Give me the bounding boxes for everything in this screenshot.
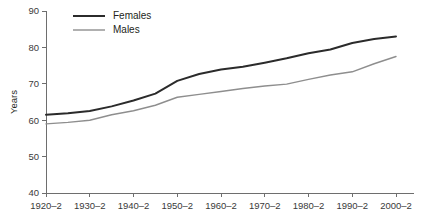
y-axis: 405060708090 (28, 5, 46, 198)
x-tick-label: 1940–2 (118, 200, 150, 211)
legend-label-males: Males (113, 24, 140, 35)
y-tick-label: 40 (28, 187, 39, 198)
y-tick-label: 90 (28, 5, 39, 16)
x-tick-label: 1980–2 (293, 200, 325, 211)
y-tick-label: 60 (28, 115, 39, 126)
y-tick-label: 70 (28, 78, 39, 89)
chart-canvas: 405060708090 1920–21930–21940–21950–2196… (0, 0, 423, 223)
x-tick-label: 1950–2 (161, 200, 193, 211)
series-line-females (46, 36, 396, 114)
x-axis: 1920–21930–21940–21950–21960–21970–21980… (30, 193, 414, 211)
chart-legend: FemalesMales (73, 10, 151, 35)
y-tick-label: 80 (28, 42, 39, 53)
y-tick-label: 50 (28, 151, 39, 162)
x-tick-label: 1930–2 (74, 200, 106, 211)
x-tick-label: 2000–2 (380, 200, 412, 211)
x-tick-label: 1970–2 (249, 200, 281, 211)
x-tick-label: 1990–2 (336, 200, 368, 211)
data-series-group (46, 36, 396, 123)
y-axis-title-group: Years (8, 90, 19, 114)
x-tick-label: 1920–2 (30, 200, 62, 211)
life-expectancy-line-chart: 405060708090 1920–21930–21940–21950–2196… (0, 0, 423, 223)
y-axis-title: Years (8, 90, 19, 114)
x-tick-label: 1960–2 (205, 200, 237, 211)
legend-label-females: Females (113, 10, 151, 21)
series-line-males (46, 57, 396, 124)
